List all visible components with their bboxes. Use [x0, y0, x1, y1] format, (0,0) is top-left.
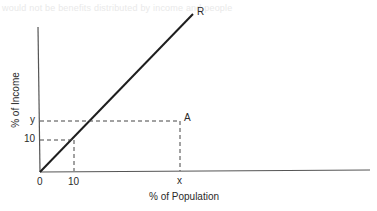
origin-label: 0 — [37, 177, 43, 187]
diagram-canvas — [0, 0, 377, 211]
y-tick-label-y: y — [30, 115, 35, 125]
equality-line-R — [40, 14, 193, 172]
x-axis-label: % of Population — [149, 192, 219, 202]
x-axis — [40, 170, 370, 172]
x-tick-label-10: 10 — [68, 177, 79, 187]
point-label-A: A — [184, 113, 191, 123]
y-axis-label: % of Income — [11, 70, 21, 130]
y-axis — [38, 27, 40, 172]
figure: would not be benefits distributed by inc… — [0, 0, 377, 211]
line-label-R: R — [197, 7, 204, 17]
x-tick-label-x: x — [177, 176, 182, 186]
y-tick-label-10: 10 — [24, 134, 35, 144]
